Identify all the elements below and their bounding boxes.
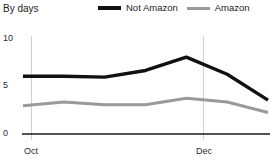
gridlines (32, 36, 204, 140)
plot-area (0, 0, 270, 163)
series-line-amazon (23, 98, 268, 112)
chart-container: By days Not Amazon Amazon 10 5 0 Oct Dec (0, 0, 270, 163)
series-line-not-amazon (23, 57, 268, 100)
